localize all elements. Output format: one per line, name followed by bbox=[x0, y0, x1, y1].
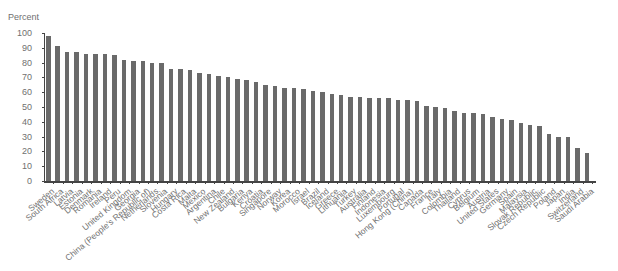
y-axis-title: Percent bbox=[8, 12, 39, 22]
bar bbox=[74, 52, 79, 181]
x-tick-mark bbox=[290, 181, 291, 184]
x-tick-mark bbox=[479, 181, 480, 184]
bar bbox=[244, 80, 249, 181]
bar bbox=[46, 36, 51, 181]
bar bbox=[481, 114, 486, 181]
bar bbox=[471, 113, 476, 181]
x-tick-mark bbox=[337, 181, 338, 184]
bar bbox=[386, 98, 391, 181]
bar bbox=[55, 46, 60, 181]
bar bbox=[367, 98, 372, 181]
bar bbox=[159, 63, 164, 181]
x-tick-mark bbox=[271, 181, 272, 184]
y-tick-label: 20 bbox=[4, 146, 32, 156]
bar bbox=[528, 125, 533, 181]
bar bbox=[556, 137, 561, 181]
x-tick-mark bbox=[91, 181, 92, 184]
bar bbox=[197, 73, 202, 181]
x-tick-mark bbox=[195, 181, 196, 184]
bar bbox=[216, 76, 221, 181]
y-tick-label: 50 bbox=[4, 102, 32, 112]
x-tick-mark bbox=[526, 181, 527, 184]
x-tick-mark bbox=[242, 181, 243, 184]
bar bbox=[131, 61, 136, 181]
x-tick-mark bbox=[309, 181, 310, 184]
y-tick-label: 100 bbox=[4, 28, 32, 38]
bar bbox=[282, 88, 287, 181]
bar bbox=[566, 137, 571, 181]
x-tick-mark bbox=[233, 181, 234, 184]
x-tick-mark bbox=[469, 181, 470, 184]
bar bbox=[585, 153, 590, 181]
bar bbox=[433, 107, 438, 181]
bar bbox=[301, 89, 306, 181]
x-tick-mark bbox=[413, 181, 414, 184]
bar bbox=[500, 119, 505, 181]
x-tick-mark bbox=[214, 181, 215, 184]
y-tick-label: 80 bbox=[4, 58, 32, 68]
bar bbox=[348, 97, 353, 181]
x-tick-mark bbox=[252, 181, 253, 184]
bar bbox=[65, 52, 70, 181]
bar bbox=[188, 70, 193, 181]
y-tick-label: 90 bbox=[4, 43, 32, 53]
x-tick-mark bbox=[535, 181, 536, 184]
bar bbox=[462, 113, 467, 181]
x-tick-mark bbox=[318, 181, 319, 184]
x-tick-mark bbox=[139, 181, 140, 184]
bar bbox=[443, 108, 448, 181]
x-tick-mark bbox=[63, 181, 64, 184]
bar bbox=[226, 77, 231, 181]
bar bbox=[575, 148, 580, 181]
x-tick-mark bbox=[82, 181, 83, 184]
bar bbox=[207, 74, 212, 181]
y-tick-label: 60 bbox=[4, 87, 32, 97]
bar bbox=[311, 91, 316, 181]
y-tick-label: 70 bbox=[4, 72, 32, 82]
x-tick-mark bbox=[280, 181, 281, 184]
bar bbox=[330, 94, 335, 181]
x-tick-mark bbox=[186, 181, 187, 184]
bar bbox=[509, 120, 514, 181]
x-tick-mark bbox=[545, 181, 546, 184]
bar bbox=[358, 97, 363, 181]
x-tick-mark bbox=[224, 181, 225, 184]
x-tick-mark bbox=[356, 181, 357, 184]
y-tick-label: 0 bbox=[4, 176, 32, 186]
x-tick-mark bbox=[394, 181, 395, 184]
bar bbox=[93, 54, 98, 181]
bar bbox=[150, 63, 155, 181]
bar bbox=[178, 69, 183, 181]
bar bbox=[415, 101, 420, 181]
x-tick-mark bbox=[299, 181, 300, 184]
bar bbox=[320, 92, 325, 181]
x-tick-mark bbox=[488, 181, 489, 184]
bar bbox=[405, 100, 410, 181]
y-axis-line bbox=[44, 33, 45, 182]
x-tick-mark bbox=[384, 181, 385, 184]
x-tick-mark bbox=[129, 181, 130, 184]
x-tick-mark bbox=[346, 181, 347, 184]
x-tick-mark bbox=[564, 181, 565, 184]
x-tick-mark bbox=[583, 181, 584, 184]
x-tick-mark bbox=[205, 181, 206, 184]
x-tick-mark bbox=[120, 181, 121, 184]
x-tick-mark bbox=[573, 181, 574, 184]
x-tick-mark bbox=[157, 181, 158, 184]
bar bbox=[122, 60, 127, 181]
x-tick-mark bbox=[167, 181, 168, 184]
bar bbox=[141, 61, 146, 181]
x-tick-mark bbox=[507, 181, 508, 184]
x-tick-mark bbox=[176, 181, 177, 184]
bar bbox=[452, 111, 457, 181]
bar bbox=[112, 55, 117, 181]
bar bbox=[424, 106, 429, 181]
x-tick-mark bbox=[431, 181, 432, 184]
x-tick-mark bbox=[53, 181, 54, 184]
bar-chart: Percent 0102030405060708090100 SwedenSou… bbox=[0, 0, 618, 271]
bar bbox=[292, 88, 297, 181]
x-tick-mark bbox=[592, 181, 593, 184]
x-tick-mark bbox=[498, 181, 499, 184]
bar bbox=[103, 54, 108, 181]
x-tick-mark bbox=[261, 181, 262, 184]
